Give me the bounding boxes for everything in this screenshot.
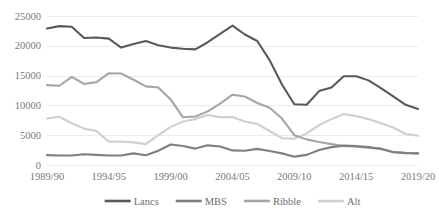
series-line-ribble	[47, 73, 418, 153]
x-tick-label: 1999/00	[153, 171, 187, 182]
y-tick-label: 5000	[20, 130, 41, 141]
chart-canvas: 0500010000150002000025000 1989/901994/95…	[0, 0, 439, 218]
y-tick-label: 20000	[15, 40, 41, 51]
x-tick-label: 2014/15	[339, 171, 373, 182]
series-line-lancs	[47, 26, 418, 109]
y-tick-label: 0	[36, 160, 41, 171]
x-tick-label: 2019/20	[401, 171, 435, 182]
chart-legend: LancsMBSRibbleAlt	[105, 196, 361, 207]
x-tick-label: 2009/10	[277, 171, 311, 182]
series-line-alt	[47, 114, 418, 144]
legend-label-mbs[interactable]: MBS	[205, 196, 227, 207]
series-lines-group	[47, 26, 418, 157]
x-tick-label: 1994/95	[92, 171, 126, 182]
legend-label-ribble[interactable]: Ribble	[273, 196, 301, 207]
line-chart: 0500010000150002000025000 1989/901994/95…	[0, 0, 439, 218]
legend-label-lancs[interactable]: Lancs	[134, 196, 159, 207]
x-tick-label: 2004/05	[215, 171, 249, 182]
y-tick-label: 10000	[15, 100, 41, 111]
y-tick-label: 25000	[15, 11, 41, 22]
y-axis-tick-labels: 0500010000150002000025000	[15, 11, 41, 171]
x-axis-tick-labels: 1989/901994/951999/002004/052009/102014/…	[30, 171, 435, 182]
series-line-mbs	[47, 144, 418, 156]
y-tick-label: 15000	[15, 70, 41, 81]
x-tick-label: 1989/90	[30, 171, 64, 182]
legend-label-alt[interactable]: Alt	[347, 196, 361, 207]
